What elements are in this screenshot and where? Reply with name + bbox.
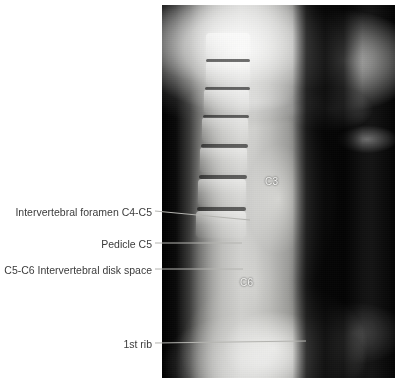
xray-image-panel	[162, 5, 395, 378]
annotation-label-c5-c6-disk-space: C5-C6 Intervertebral disk space	[4, 264, 152, 276]
annotation-label-first-rib: 1st rib	[123, 338, 152, 350]
annotation-label-foramen-c4-c5: Intervertebral foramen C4-C5	[15, 206, 152, 218]
radiograph-figure: C3 C6 Intervertebral foramen C4-C5 Pedic…	[0, 0, 403, 390]
vertebra-label-c3: C3	[265, 176, 278, 187]
xray-airway-layer	[162, 5, 395, 378]
xray-image	[162, 5, 395, 378]
vertebra-label-c6: C6	[240, 277, 253, 288]
annotation-label-pedicle-c5: Pedicle C5	[101, 238, 152, 250]
